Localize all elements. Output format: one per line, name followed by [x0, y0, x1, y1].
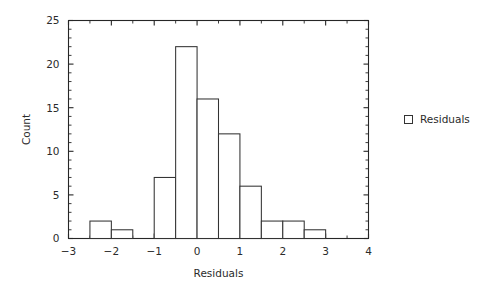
x-axis-title: Residuals [194, 267, 244, 279]
histogram-bar [176, 47, 197, 239]
x-tick-label: 4 [365, 245, 372, 257]
y-tick-label: 15 [46, 102, 59, 114]
x-tick-label: 1 [237, 245, 244, 257]
histogram-figure: −3−2−101234 0510152025 Residuals Count R… [0, 0, 481, 291]
x-tick-label: −1 [146, 245, 161, 257]
x-tick-label: −2 [104, 245, 119, 257]
histogram-bar [240, 186, 261, 238]
y-tick-label: 10 [46, 145, 59, 157]
legend-swatch-icon [404, 115, 413, 124]
histogram-bar [261, 221, 282, 238]
legend-label: Residuals [420, 113, 470, 125]
x-axis-tick-labels: −3−2−101234 [61, 245, 372, 257]
y-tick-label: 0 [53, 232, 60, 244]
histogram-bar [90, 221, 111, 238]
y-tick-label: 20 [46, 58, 59, 70]
histogram-bar [219, 134, 240, 239]
chart-canvas: −3−2−101234 0510152025 Residuals Count [0, 0, 481, 291]
x-tick-label: 2 [279, 245, 286, 257]
y-axis-tick-labels: 0510152025 [46, 14, 59, 244]
y-axis-title: Count [20, 114, 32, 145]
chart-legend: Residuals [404, 113, 470, 125]
y-tick-label: 25 [46, 14, 59, 26]
x-tick-label: −3 [61, 245, 76, 257]
x-tick-label: 0 [194, 245, 201, 257]
histogram-bars [90, 47, 326, 239]
histogram-bar [304, 230, 325, 239]
histogram-bar [283, 221, 304, 238]
y-tick-label: 5 [53, 189, 60, 201]
histogram-bar [197, 99, 218, 239]
x-tick-label: 3 [322, 245, 329, 257]
histogram-bar [154, 177, 175, 238]
histogram-bar [111, 230, 132, 239]
